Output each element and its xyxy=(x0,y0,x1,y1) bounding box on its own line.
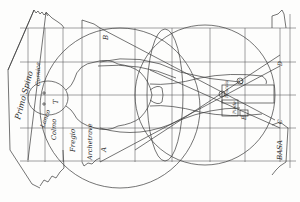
letter-a: A xyxy=(100,147,108,153)
label-cornice: Cornice xyxy=(34,62,41,86)
letter-e: E xyxy=(240,115,247,121)
cornice-step-3 xyxy=(82,20,100,28)
cornice-step-2 xyxy=(46,12,64,28)
proportion-diagram: Primo Spino Lanco Colmo Cornice Fregio A… xyxy=(0,0,300,202)
letter-g: G xyxy=(237,79,244,84)
letter-d: D xyxy=(276,61,283,67)
label-basa: BASA xyxy=(276,140,284,161)
label-primo-spino: Primo Spino xyxy=(13,70,35,122)
grid xyxy=(20,14,296,168)
cornice-line xyxy=(8,10,34,70)
base-outer xyxy=(272,10,286,28)
diagonal xyxy=(135,55,280,150)
letter-t: T xyxy=(52,98,60,104)
arm-right xyxy=(100,108,240,133)
label-foot-note: Piede xyxy=(232,101,237,115)
neck xyxy=(66,80,74,114)
label-colmo: Colmo xyxy=(50,119,58,140)
letter-c: C xyxy=(276,119,283,124)
drawing-canvas: Primo Spino Lanco Colmo Cornice Fregio A… xyxy=(0,0,300,202)
cornice-bottom-teeth xyxy=(40,150,64,186)
label-fregio: Fregio xyxy=(69,129,77,153)
label-archetrave: Archetrave xyxy=(86,123,94,161)
diagonal xyxy=(150,70,280,128)
letter-b: B xyxy=(102,35,110,41)
label-body-note: Braccia xyxy=(224,80,229,99)
